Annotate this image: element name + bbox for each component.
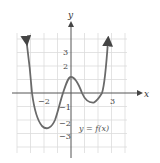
- y-tick-neg2: −2: [59, 119, 71, 128]
- curve-label: y = f(x): [78, 124, 109, 133]
- x-tick-neg2: −2: [38, 97, 50, 106]
- y-tick-3: 3: [63, 48, 68, 57]
- y-tick-neg3: −3: [59, 132, 71, 141]
- x-axis-label: x: [144, 89, 149, 99]
- function-graph: y x −2 3 3 2 −1 −2 −3 y = f(x): [0, 0, 160, 163]
- y-tick-neg1: −1: [59, 103, 71, 112]
- x-tick-3: 3: [110, 97, 115, 106]
- y-tick-2: 2: [63, 62, 68, 71]
- y-axis-label: y: [67, 10, 74, 20]
